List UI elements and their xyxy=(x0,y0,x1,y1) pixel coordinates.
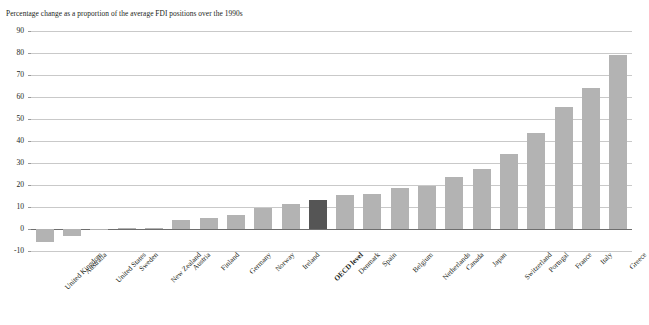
y-tick-label: 20 xyxy=(16,181,24,189)
x-tick-label: Germany xyxy=(248,251,273,276)
y-tick-label: 30 xyxy=(16,159,24,167)
bar xyxy=(172,220,190,229)
plot-area xyxy=(31,31,632,251)
y-axis: -100102030405060708090 xyxy=(0,0,31,325)
bar xyxy=(555,107,573,229)
chart-subtitle: Percentage change as a proportion of the… xyxy=(6,9,243,18)
bar xyxy=(227,215,245,229)
y-tick-label: 90 xyxy=(16,27,24,35)
y-tick-label: -10 xyxy=(14,247,24,255)
bar xyxy=(63,229,81,236)
x-tick-label: Belgium xyxy=(411,251,434,274)
bar xyxy=(336,195,354,229)
bar xyxy=(90,229,108,230)
y-tick-label: 60 xyxy=(16,93,24,101)
x-tick-label: Japan xyxy=(491,251,508,268)
y-tick-label: 80 xyxy=(16,49,24,57)
bar xyxy=(145,228,163,229)
bar xyxy=(527,133,545,229)
bar xyxy=(500,154,518,229)
bar xyxy=(309,200,327,229)
bar xyxy=(418,186,436,229)
y-tick-label: 0 xyxy=(20,225,24,233)
bar xyxy=(582,88,600,229)
bar xyxy=(363,194,381,229)
bar xyxy=(36,229,54,242)
x-tick-label: Italy xyxy=(599,251,614,266)
x-tick-label: Finland xyxy=(219,251,240,272)
y-tick-label: 70 xyxy=(16,71,24,79)
bar xyxy=(609,55,627,229)
bar xyxy=(473,169,491,230)
bar xyxy=(118,228,136,229)
x-tick-label: Ireland xyxy=(301,251,321,271)
bar xyxy=(254,208,272,229)
bar xyxy=(391,188,409,229)
bar xyxy=(282,204,300,229)
x-tick-label: Australia xyxy=(84,251,109,276)
x-tick-label: France xyxy=(574,251,594,271)
x-tick-label: Greece xyxy=(628,251,648,271)
x-axis: United KingdomAustraliaUnited StatesSwed… xyxy=(31,251,632,325)
bar xyxy=(200,218,218,229)
bar xyxy=(445,177,463,229)
y-tick-label: 50 xyxy=(16,115,24,123)
y-tick-label: 10 xyxy=(16,203,24,211)
y-tick-label: 40 xyxy=(16,137,24,145)
x-tick-label: Spain xyxy=(381,251,398,268)
x-tick-label: Norway xyxy=(274,251,296,273)
bars-group xyxy=(31,31,632,251)
